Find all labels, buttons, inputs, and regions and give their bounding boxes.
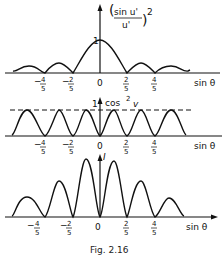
- ylabel-exponent: 2: [147, 7, 153, 17]
- interference-chart: 1 cos 2 v − 4 5 − 2 5 0 2 5 4 5 sin θ: [5, 95, 222, 156]
- x-axis-label: sin θ: [194, 78, 216, 88]
- tick-neg4-den: 5: [41, 85, 45, 93]
- y-axis-arrow-icon: [98, 154, 103, 161]
- tick-zero: 0: [95, 222, 101, 232]
- tick-4-num: 4: [152, 220, 157, 228]
- ylabel-numerator: sin u': [114, 7, 138, 17]
- ylabel-cos: cos: [105, 98, 120, 108]
- y-axis-arrow-icon: [98, 4, 103, 11]
- tick-2-den: 5: [124, 85, 128, 93]
- y-value-one: 1: [92, 99, 98, 109]
- tick-zero: 0: [97, 141, 103, 151]
- ylabel-denominator: u': [122, 20, 130, 30]
- tick-neg4-num: 4: [41, 139, 46, 147]
- tick-neg2-num: 2: [69, 139, 73, 147]
- envelope-chart: 1 ( sin u' u' ) 2 − 4 5 − 2 5 0 2 5 4 5 …: [5, 2, 220, 93]
- tick-neg4-num: 4: [41, 76, 46, 84]
- envelope-curve: [13, 40, 190, 73]
- tick-4-num: 4: [152, 139, 157, 147]
- tick-2-num: 2: [124, 220, 128, 228]
- y-axis-arrow-icon: [98, 97, 103, 104]
- tick-4-num: 4: [152, 76, 157, 84]
- tick-neg2-den: 5: [69, 85, 73, 93]
- tick-neg4-den: 5: [35, 229, 39, 237]
- tick-2-num: 2: [124, 76, 128, 84]
- intensity-curve: [12, 159, 184, 217]
- y-value-one: 1: [93, 36, 99, 46]
- tick-neg2-den: 5: [67, 229, 71, 237]
- tick-neg2-num: 2: [69, 76, 73, 84]
- tick-neg2-den: 5: [69, 148, 73, 156]
- tick-2-num: 2: [124, 139, 128, 147]
- tick-neg4-den: 5: [41, 148, 45, 156]
- minus-sign: −: [27, 220, 35, 230]
- tick-2-den: 5: [124, 148, 128, 156]
- tick-4-den: 5: [152, 229, 156, 237]
- figure-caption: Fig. 2.16: [90, 245, 129, 255]
- x-axis-label: sin θ: [194, 141, 216, 151]
- cos-squared-curve: [12, 110, 186, 136]
- tick-zero: 0: [97, 78, 103, 88]
- intensity-chart: I − 4 5 − 2 5 0 2 5 4 5 sin θ: [5, 152, 218, 237]
- tick-4-den: 5: [152, 85, 156, 93]
- tick-2-den: 5: [124, 229, 128, 237]
- x-axis-label: sin θ: [186, 222, 208, 232]
- tick-4-den: 5: [152, 148, 156, 156]
- tick-neg4-num: 4: [35, 220, 40, 228]
- ylabel-intensity: I: [103, 152, 106, 162]
- diffraction-figure: 1 ( sin u' u' ) 2 − 4 5 − 2 5 0 2 5 4 5 …: [0, 0, 224, 256]
- tick-neg2-num: 2: [67, 220, 71, 228]
- ylabel-var: v: [133, 99, 139, 109]
- ylabel-exponent: 2: [126, 95, 130, 103]
- x-axis-arrow-icon: [211, 215, 218, 220]
